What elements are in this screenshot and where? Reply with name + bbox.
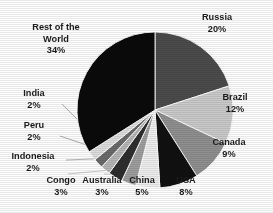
slice-label-peru-percent: 2% — [10, 132, 58, 144]
slice-label-usa-name: USA — [166, 175, 206, 187]
slice-label-rest-of-world-name-line2: World — [18, 34, 94, 46]
slice-label-australia-name: Australia — [76, 175, 128, 187]
slice-label-brazil: Brazil 12% — [206, 92, 264, 115]
slice-label-congo-percent: 3% — [39, 187, 83, 199]
slice-label-india-percent: 2% — [10, 100, 58, 112]
slice-label-indonesia-name: Indonesia — [2, 151, 64, 163]
slice-label-india-name: India — [10, 88, 58, 100]
slice-label-brazil-name: Brazil — [206, 92, 264, 104]
slice-label-india: India 2% — [10, 88, 58, 111]
slice-label-indonesia-percent: 2% — [2, 163, 64, 175]
slice-label-china-name: China — [122, 175, 162, 187]
slice-label-peru: Peru 2% — [10, 120, 58, 143]
slice-label-china-percent: 5% — [122, 187, 162, 199]
slice-label-australia-percent: 3% — [76, 187, 128, 199]
slice-label-rest-of-world-percent: 34% — [18, 45, 94, 57]
slice-label-canada-name: Canada — [200, 137, 258, 149]
slice-label-congo: Congo 3% — [39, 175, 83, 198]
slice-label-russia-name: Russia — [186, 12, 248, 24]
slice-label-russia: Russia 20% — [186, 12, 248, 35]
slice-label-canada: Canada 9% — [200, 137, 258, 160]
slice-label-rest-of-world-name-line1: Rest of the — [18, 22, 94, 34]
slice-label-australia: Australia 3% — [76, 175, 128, 198]
pie-chart-figure: Russia 20% Brazil 12% Canada 9% USA 8% C… — [0, 0, 273, 213]
slice-label-china: China 5% — [122, 175, 162, 198]
slice-label-peru-name: Peru — [10, 120, 58, 132]
slice-label-usa-percent: 8% — [166, 187, 206, 199]
slice-label-usa: USA 8% — [166, 175, 206, 198]
slice-label-brazil-percent: 12% — [206, 104, 264, 116]
slice-label-congo-name: Congo — [39, 175, 83, 187]
slice-label-indonesia: Indonesia 2% — [2, 151, 64, 174]
slice-label-russia-percent: 20% — [186, 24, 248, 36]
slice-label-rest-of-world: Rest of the World 34% — [18, 22, 94, 57]
slice-label-canada-percent: 9% — [200, 149, 258, 161]
